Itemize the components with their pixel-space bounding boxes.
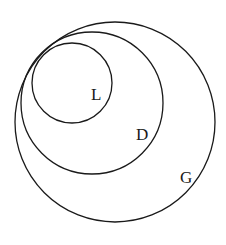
nested-circles-diagram: G D L — [0, 0, 226, 245]
label-g: G — [180, 168, 192, 187]
circle-l — [32, 43, 112, 123]
label-l: L — [91, 85, 101, 104]
circle-g — [15, 22, 215, 222]
label-d: D — [136, 125, 148, 144]
